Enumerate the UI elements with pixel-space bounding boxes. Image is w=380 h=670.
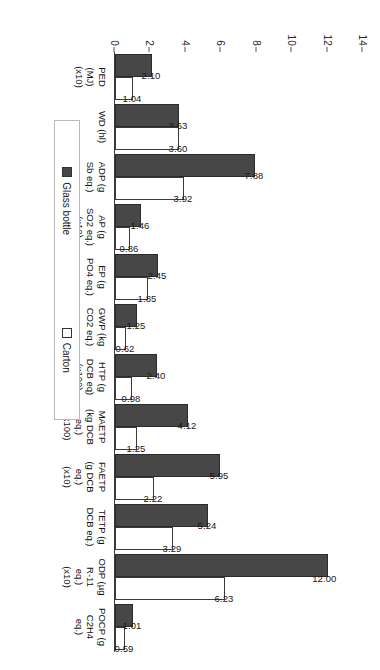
empty-square-icon [62,328,72,338]
bar-value-label: 1.46 [130,219,149,230]
plot-area: 2.101.043.633.607.883.921.460.862.451.85… [114,52,362,652]
y-axis-tick-label: 12 [321,34,332,46]
legend-label: Carton [62,343,73,373]
bar-carton[interactable]: 0.86 [115,227,130,250]
chart-legend: Glass bottleCarton [54,120,80,420]
bar-glass-bottle[interactable]: 2.45 [115,254,158,277]
rotated-chart-stage: 02468101214 2.101.043.633.607.883.921.46… [0,0,380,670]
bar-value-label: 7.88 [244,169,263,180]
bar-glass-bottle[interactable]: 7.88 [115,154,255,177]
bar-carton[interactable]: 6.23 [115,577,225,600]
bar-carton[interactable]: 3.60 [115,127,179,150]
bar-glass-bottle[interactable]: 2.40 [115,354,158,377]
bar-glass-bottle[interactable]: 2.10 [115,54,152,77]
bar-value-label: 2.45 [148,269,167,280]
filled-square-icon [62,167,72,177]
bar-value-label: 4.12 [178,419,197,430]
bar-value-label: 0.59 [115,642,134,653]
bar-glass-bottle[interactable]: 4.12 [115,404,188,427]
bar-value-label: 5.24 [197,519,216,530]
category-label: TETP (g DCB eq.) [22,502,112,552]
category-label: POCP (g C2H4 eq.) [22,602,112,652]
bar-glass-bottle[interactable]: 3.63 [115,104,179,127]
bar-glass-bottle[interactable]: 1.25 [115,304,137,327]
bar-value-label: 5.95 [210,469,229,480]
bar-group: 5.243.29 [115,502,362,552]
y-axis-tick-label: 10 [286,34,297,46]
y-axis-tick-label: 8 [250,40,261,46]
bar-carton[interactable]: 1.85 [115,277,148,300]
bar-groups: 2.101.043.633.607.883.921.460.862.451.85… [115,52,362,652]
legend-item[interactable]: Carton [62,328,73,373]
y-axis-tick-label: 14 [357,34,368,46]
bar-carton[interactable]: 3.92 [115,177,184,200]
bar-carton[interactable]: 0.62 [115,327,126,350]
bar-group: 5.952.22 [115,452,362,502]
bar-group: 2.451.85 [115,252,362,302]
bar-group: 3.633.60 [115,102,362,152]
bar-group: 2.101.04 [115,52,362,102]
bar-carton[interactable]: 0.59 [115,627,125,650]
bar-group: 1.460.86 [115,202,362,252]
bar-carton[interactable]: 2.22 [115,477,154,500]
bar-glass-bottle[interactable]: 12.00 [115,554,328,577]
bar-group: 7.883.92 [115,152,362,202]
bar-carton[interactable]: 1.04 [115,77,133,100]
bar-value-label: 1.25 [127,319,146,330]
bar-chart: 02468101214 2.101.043.633.607.883.921.46… [0,0,380,670]
bar-group: 2.400.98 [115,352,362,402]
bar-glass-bottle[interactable]: 5.24 [115,504,208,527]
y-axis-tick-label: 0 [109,40,120,46]
bar-value-label: 2.10 [142,69,161,80]
bar-carton[interactable]: 3.29 [115,527,173,550]
bar-carton[interactable]: 0.98 [115,377,132,400]
category-label: ODP (µg R-11 eq.) (x10) [22,552,112,602]
bar-glass-bottle[interactable]: 5.95 [115,454,220,477]
bar-group: 12.006.23 [115,552,362,602]
y-axis-tick-label: 6 [215,40,226,46]
bar-carton[interactable]: 1.25 [115,427,137,450]
category-label: FAETP (g DCB eq.) (x10) [22,452,112,502]
bar-glass-bottle[interactable]: 1.46 [115,204,141,227]
bar-glass-bottle[interactable]: 1.01 [115,604,133,627]
y-axis-tick-label: 4 [179,40,190,46]
y-axis-tick-label: 2 [144,40,155,46]
y-axis: 02468101214 [114,0,362,52]
category-label: PED (MJ) (x10) [22,52,112,102]
bar-value-label: 12.00 [312,572,336,583]
bar-group: 1.010.59 [115,602,362,652]
bar-group: 1.250.62 [115,302,362,352]
bar-group: 4.121.25 [115,402,362,452]
legend-label: Glass bottle [62,182,73,235]
bar-value-label: 2.40 [147,369,166,380]
legend-item[interactable]: Glass bottle [62,167,73,235]
